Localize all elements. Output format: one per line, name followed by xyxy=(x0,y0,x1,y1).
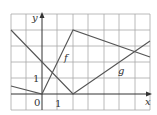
grid xyxy=(11,14,150,110)
f-label: f xyxy=(63,52,70,63)
y-axis-arrow-icon xyxy=(40,12,45,18)
y-tick-1-label: 1 xyxy=(33,73,39,84)
x-tick-1-label: 1 xyxy=(55,98,61,109)
function-graph: y x 0 1 1 f g xyxy=(0,0,157,115)
g-label: g xyxy=(118,65,124,76)
y-axis-label: y xyxy=(31,12,38,23)
x-axis-label: x xyxy=(145,96,151,107)
origin-label: 0 xyxy=(34,97,40,108)
